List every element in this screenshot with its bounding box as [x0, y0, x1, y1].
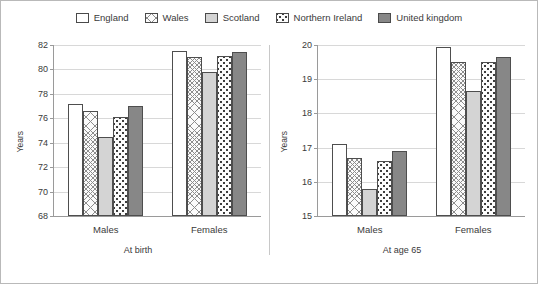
bar-group-females: Females	[158, 45, 262, 216]
bar-northern-ireland[interactable]	[377, 161, 392, 216]
bar-united-kingdom[interactable]	[392, 151, 407, 216]
y-axis-tick-label: 80	[38, 64, 54, 74]
legend-item-label: Wales	[163, 13, 189, 23]
legend-item-label: Scotland	[223, 13, 260, 23]
chart-panel-at-birth: Years 6870727476788082MalesFemales At bi…	[9, 39, 267, 254]
x-axis-group-label: Females	[422, 224, 526, 235]
bar-england[interactable]	[332, 144, 347, 216]
bar-scotland[interactable]	[466, 91, 481, 216]
legend-swatch-icon	[205, 13, 218, 23]
bar-group-females: Females	[422, 45, 526, 216]
y-axis-tick-label: 16	[302, 177, 318, 187]
legend-item-northern-ireland[interactable]: Northern Ireland	[276, 13, 363, 23]
bar-wales[interactable]	[83, 111, 98, 216]
plot-area-right: 151617181920MalesFemales	[317, 45, 525, 217]
legend-item-united-kingdom[interactable]: United kingdom	[378, 13, 462, 23]
legend-item-wales[interactable]: Wales	[145, 13, 189, 23]
legend-item-label: Northern Ireland	[294, 13, 363, 23]
panel-divider	[269, 45, 270, 255]
chart-panel-at-age-65: Years 151617181920MalesFemales At age 65	[273, 39, 531, 254]
bar-united-kingdom[interactable]	[496, 57, 511, 216]
bar-groups: MalesFemales	[54, 45, 261, 216]
y-axis-tick-label: 82	[38, 40, 54, 50]
y-axis-title-right: Years	[279, 131, 289, 152]
y-axis-tick-label: 78	[38, 89, 54, 99]
x-axis-group-label: Males	[318, 224, 422, 235]
chart-figure: EnglandWalesScotlandNorthern IrelandUnit…	[0, 0, 538, 284]
bar-scotland[interactable]	[98, 137, 113, 216]
bar-group-males: Males	[318, 45, 422, 216]
y-axis-tick-label: 18	[302, 108, 318, 118]
bar-united-kingdom[interactable]	[128, 106, 143, 216]
plot-area-left: 6870727476788082MalesFemales	[53, 45, 261, 217]
bar-scotland[interactable]	[202, 72, 217, 216]
y-axis-tick-label: 70	[38, 187, 54, 197]
bar-group-males: Males	[54, 45, 158, 216]
bar-northern-ireland[interactable]	[217, 56, 232, 216]
legend-swatch-icon	[76, 13, 89, 23]
legend-swatch-icon	[276, 13, 289, 23]
y-axis-tick-label: 72	[38, 162, 54, 172]
y-axis-tick-label: 68	[38, 211, 54, 221]
y-axis-tick-label: 15	[302, 211, 318, 221]
y-axis-tick-label: 19	[302, 74, 318, 84]
legend-item-label: England	[94, 13, 129, 23]
bar-england[interactable]	[68, 104, 83, 216]
y-axis-tick-label: 76	[38, 113, 54, 123]
x-axis-group-label: Females	[158, 224, 262, 235]
y-axis-title-left: Years	[15, 131, 25, 152]
legend-item-scotland[interactable]: Scotland	[205, 13, 260, 23]
bar-wales[interactable]	[347, 158, 362, 216]
y-axis-tick-label: 74	[38, 138, 54, 148]
bar-northern-ireland[interactable]	[113, 117, 128, 216]
bar-northern-ireland[interactable]	[481, 62, 496, 216]
bar-england[interactable]	[436, 47, 451, 216]
legend-swatch-icon	[378, 13, 391, 23]
bar-groups: MalesFemales	[318, 45, 525, 216]
panel-caption-at-birth: At birth	[9, 245, 267, 255]
chart-legend: EnglandWalesScotlandNorthern IrelandUnit…	[1, 13, 537, 23]
bar-scotland[interactable]	[362, 189, 377, 216]
legend-swatch-icon	[145, 13, 158, 23]
bar-wales[interactable]	[187, 57, 202, 216]
panel-caption-at-age-65: At age 65	[273, 245, 531, 255]
y-axis-tick-label: 17	[302, 143, 318, 153]
bar-united-kingdom[interactable]	[232, 52, 247, 216]
y-axis-tick-label: 20	[302, 40, 318, 50]
x-axis-group-label: Males	[54, 224, 158, 235]
legend-item-england[interactable]: England	[76, 13, 129, 23]
bar-england[interactable]	[172, 51, 187, 216]
legend-item-label: United kingdom	[396, 13, 462, 23]
bar-wales[interactable]	[451, 62, 466, 216]
